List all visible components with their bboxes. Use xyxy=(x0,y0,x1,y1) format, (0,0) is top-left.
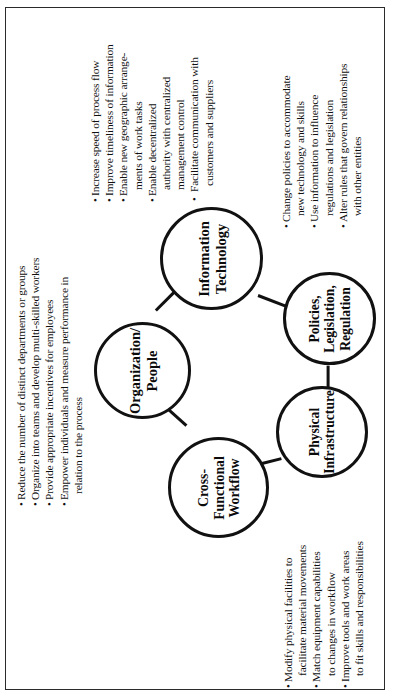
node-label-line-2: People xyxy=(143,327,160,413)
bullet-item: Reduce the number of distinct department… xyxy=(14,258,28,500)
node-policies-legislation-regulation[interactable]: Policies, Legislation, Regulation xyxy=(283,272,376,365)
node-cross-functional-workflow-label: Cross- Functional Workflow xyxy=(195,456,242,520)
node-label-line-1: Cross- xyxy=(195,468,210,506)
bullet-item-continuation: with other entities xyxy=(350,64,364,222)
bullet-item-continuation: ments of work tasks xyxy=(131,44,145,196)
node-label-line-2: Technology xyxy=(212,221,229,297)
node-physical-infrastructure[interactable]: Physical Infrastructure xyxy=(276,386,368,478)
bullet-item: Enable new geographic arrange- xyxy=(116,44,130,196)
bullet-item-continuation: relation to the process xyxy=(71,258,85,500)
bullet-item-continuation: customers and suppliers xyxy=(202,44,216,196)
node-policies-legislation-regulation-label: Policies, Legislation, Regulation xyxy=(306,285,352,353)
bullet-item: Use information to influence xyxy=(307,64,321,222)
bullet-item: Increase speed of process flow xyxy=(88,44,102,196)
node-label-line-1: Physical xyxy=(307,408,322,456)
bullet-item: Improve timeliness of information xyxy=(102,44,116,196)
bullet-item: Empower individuals and measure performa… xyxy=(57,258,71,500)
annotation-information-technology: Increase speed of process flow Improve t… xyxy=(88,44,216,196)
node-label-line-2: Legislation, xyxy=(322,285,337,353)
node-cross-functional-workflow[interactable]: Cross- Functional Workflow xyxy=(168,437,269,538)
bullet-item: Organize into teams and develop multi-sk… xyxy=(28,258,42,500)
node-information-technology-label: Information Technology xyxy=(195,221,228,297)
bullet-item: Change policies to accommodate xyxy=(279,64,293,222)
node-label-line-1: Information xyxy=(195,221,211,297)
annotation-policies-legislation-regulation: Change policies to accommodate new techn… xyxy=(279,64,364,222)
bullet-item-continuation: authority with centralized xyxy=(159,44,173,196)
node-label-line-2: Infrastructure xyxy=(322,390,337,474)
node-label-line-2: Functional xyxy=(211,456,227,520)
diagram-canvas: Information Technology Organization/ Peo… xyxy=(0,0,397,698)
annotation-physical-infrastructure: Modify physical facilities to facilitate… xyxy=(281,541,366,682)
bullet-item-continuation: management control xyxy=(173,44,187,196)
node-information-technology[interactable]: Information Technology xyxy=(160,207,263,310)
annotation-organization-people: Reduce the number of distinct department… xyxy=(14,258,85,500)
bullet-item-continuation: to fit skills and responsibilities xyxy=(352,541,366,682)
node-organization-people-label: Organization/ People xyxy=(126,327,159,413)
bullet-item-continuation: facilitate material movements xyxy=(295,541,309,682)
bullet-item: Alter rules that govern relationships xyxy=(336,64,350,222)
bullet-item: Provide appropriate incentives for emplo… xyxy=(42,258,56,500)
node-label-line-3: Regulation xyxy=(337,285,352,353)
bullet-item-continuation: regulations and legislation xyxy=(322,64,336,222)
bullet-item: Improve tools and work areas xyxy=(338,541,352,682)
bullet-item: Modify physical facilities to xyxy=(281,541,295,682)
node-label-line-1: Organization/ xyxy=(126,327,142,413)
node-organization-people[interactable]: Organization/ People xyxy=(94,322,191,419)
bullet-item-continuation: to changes in workflow xyxy=(324,541,338,682)
node-physical-infrastructure-label: Physical Infrastructure xyxy=(307,390,338,474)
node-label-line-1: Policies, xyxy=(306,295,321,342)
node-label-line-3: Workflow xyxy=(226,456,242,520)
bullet-item: Enable decentralized xyxy=(145,44,159,196)
bullet-item: Match equipment capabilities xyxy=(309,541,323,682)
bullet-item-continuation: new technology and skills xyxy=(293,64,307,222)
bullet-item: Facilitate communication with xyxy=(187,44,201,196)
